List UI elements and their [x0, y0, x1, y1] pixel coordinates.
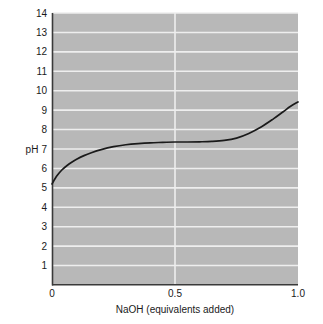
x-tick-label: 0.5: [168, 288, 182, 299]
y-tick-label: 8: [41, 124, 47, 135]
y-tick-label: 11: [37, 66, 48, 77]
x-tick-label: 0: [49, 288, 55, 299]
x-tick-label: 1.0: [291, 288, 305, 299]
ph-titration-chart-figure: 1234567891011121314 00.51.0 pH NaOH (equ…: [0, 0, 323, 324]
y-tick-label: 3: [41, 221, 47, 232]
y-tick-label: 14: [36, 8, 48, 19]
y-axis-title: pH: [26, 144, 39, 155]
y-tick-label: 2: [41, 241, 47, 252]
y-tick-label: 7: [41, 144, 47, 155]
y-tick-label: 9: [41, 105, 47, 116]
chart-svg: 1234567891011121314 00.51.0 pH NaOH (equ…: [0, 0, 323, 324]
y-tick-label: 5: [41, 182, 47, 193]
x-axis-title: NaOH (equivalents added): [116, 304, 234, 315]
y-tick-label: 6: [41, 163, 47, 174]
y-tick-label: 13: [36, 27, 48, 38]
y-tick-label: 4: [41, 202, 47, 213]
y-tick-label: 12: [36, 46, 48, 57]
y-tick-label: 10: [36, 85, 48, 96]
y-tick-label: 1: [41, 260, 47, 271]
